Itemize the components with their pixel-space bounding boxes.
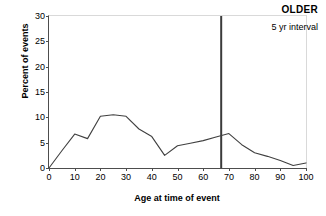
x-axis-tick-label: 50 [172,173,182,182]
x-axis-tick-label: 0 [46,173,51,182]
x-axis-tick-label: 10 [70,173,80,182]
y-axis-tick-label: 20 [35,62,45,71]
y-axis-tick-label: 5 [40,138,45,147]
x-axis-tick-mark [280,168,281,171]
older-annotation-label: OLDER [282,4,319,15]
y-axis-tick-mark [46,143,49,144]
x-axis-tick-mark [178,168,179,171]
y-axis-tick-mark [46,67,49,68]
y-axis-tick-mark [46,16,49,17]
x-axis-tick-mark [126,168,127,171]
x-axis-tick-mark [100,168,101,171]
x-axis-tick-mark [49,168,50,171]
x-axis-title: Age at time of event [48,193,306,203]
x-axis-tick-label: 30 [121,173,131,182]
y-axis-tick-label: 10 [35,113,45,122]
x-axis-tick-mark [152,168,153,171]
x-axis-tick-label: 60 [198,173,208,182]
x-axis-tick-mark [75,168,76,171]
y-axis-title: Percent of events [20,0,30,131]
y-axis-tick-label: 0 [40,164,45,173]
x-axis-tick-label: 100 [298,173,313,182]
y-axis-tick-label: 25 [35,37,45,46]
y-axis-tick-mark [46,92,49,93]
data-series-line [49,115,306,168]
plot-area: 0510152025300102030405060708090100 [48,15,307,169]
x-axis-tick-mark [229,168,230,171]
x-axis-tick-label: 90 [275,173,285,182]
x-axis-tick-mark [306,168,307,171]
line-chart-canvas [49,16,306,168]
x-axis-tick-label: 40 [147,173,157,182]
chart-figure: Percent of events 0510152025300102030405… [0,0,326,216]
y-axis-tick-label: 30 [35,12,45,21]
x-axis-tick-mark [203,168,204,171]
x-axis-tick-mark [255,168,256,171]
y-axis-tick-mark [46,41,49,42]
y-axis-tick-mark [46,117,49,118]
x-axis-tick-label: 80 [250,173,260,182]
y-axis-tick-label: 15 [35,88,45,97]
x-axis-tick-label: 20 [95,173,105,182]
interval-annotation-label: 5 yr interval [271,22,318,32]
x-axis-tick-label: 70 [224,173,234,182]
